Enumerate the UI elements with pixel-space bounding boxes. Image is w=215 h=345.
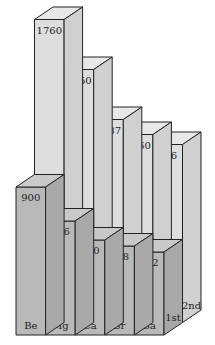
back-bar-value-be: 1760 bbox=[37, 25, 62, 36]
back-bar-ba-side-face bbox=[183, 132, 202, 323]
front-bar-value-be: 900 bbox=[21, 192, 40, 203]
front-bar-be-side-face bbox=[46, 175, 65, 336]
ionization-energy-3d-bar-chart: 9661060113714501760502Ba548Sr590Ca736Mg9… bbox=[0, 0, 215, 345]
front-bar-mg-side-face bbox=[75, 209, 94, 336]
chart-canvas: 9661060113714501760502Ba548Sr590Ca736Mg9… bbox=[0, 0, 215, 345]
series-label-1st: 1st bbox=[165, 312, 181, 323]
front-bar-sr-side-face bbox=[134, 234, 153, 336]
front-bar-ca-side-face bbox=[105, 228, 124, 336]
series-label-2nd: 2nd bbox=[182, 300, 202, 311]
front-bar-be-front-face bbox=[16, 187, 46, 335]
category-label-be: Be bbox=[24, 320, 37, 331]
